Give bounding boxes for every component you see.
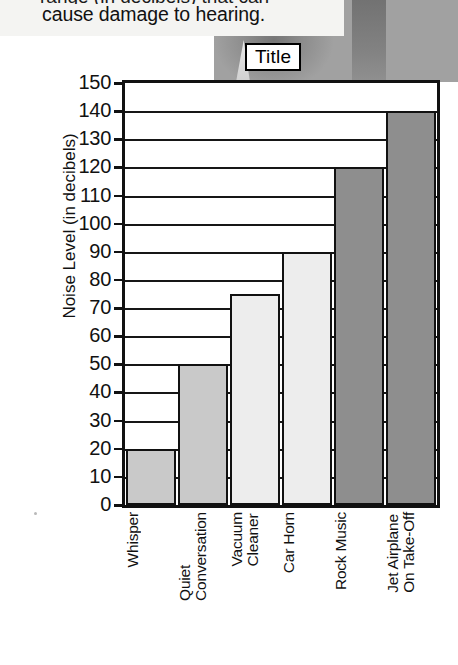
y-tick-label: 90 — [59, 240, 111, 263]
y-tick-label: 20 — [59, 437, 111, 460]
y-tick-label: 70 — [59, 296, 111, 319]
y-tick-mark — [114, 223, 125, 226]
x-axis-label: Quiet Conversation — [177, 512, 225, 601]
y-tick-label: 110 — [59, 184, 111, 207]
y-tick-label: 30 — [59, 409, 111, 432]
y-tick-mark — [114, 448, 125, 451]
y-tick-label: 0 — [59, 493, 111, 516]
plot-area: 0102030405060708090100110120130140150 — [122, 80, 440, 508]
x-axis-label: Jet Airplane On Take-Off — [385, 512, 433, 593]
bar[interactable] — [282, 252, 332, 505]
y-tick-label: 50 — [59, 352, 111, 375]
bar[interactable] — [334, 167, 384, 505]
y-tick-mark — [114, 195, 125, 198]
y-tick-label: 130 — [59, 127, 111, 150]
y-tick-label: 100 — [59, 212, 111, 235]
y-tick-label: 150 — [59, 71, 111, 94]
x-axis-labels: WhisperQuiet ConversationVacuum CleanerC… — [122, 512, 440, 662]
bar[interactable] — [386, 111, 436, 505]
bar[interactable] — [126, 449, 176, 505]
x-axis-label: Rock Music — [333, 512, 381, 590]
y-tick-mark — [114, 138, 125, 141]
y-tick-label: 10 — [59, 465, 111, 488]
x-axis-label: Car Horn — [281, 512, 329, 573]
y-tick-mark — [114, 82, 125, 85]
bars-layer — [125, 83, 437, 505]
y-tick-mark — [114, 504, 125, 507]
y-tick-mark — [114, 251, 125, 254]
y-tick-mark — [114, 307, 125, 310]
x-axis-label: Whisper — [125, 512, 173, 567]
y-tick-label: 140 — [59, 99, 111, 122]
y-tick-label: 40 — [59, 380, 111, 403]
y-tick-mark — [114, 476, 125, 479]
bar[interactable] — [178, 364, 228, 505]
chart-page: range (in decibels) that can cause damag… — [0, 0, 458, 665]
y-tick-mark — [114, 420, 125, 423]
y-tick-mark — [114, 166, 125, 169]
y-tick-mark — [114, 110, 125, 113]
x-axis-label: Vacuum Cleaner — [229, 512, 277, 567]
scan-speck — [34, 512, 37, 515]
bar-chart: Noise Level (in decibels) 01020304050607… — [0, 0, 458, 665]
y-tick-label: 80 — [59, 268, 111, 291]
y-tick-label: 60 — [59, 324, 111, 347]
y-tick-mark — [114, 335, 125, 338]
y-tick-mark — [114, 279, 125, 282]
y-tick-label: 120 — [59, 155, 111, 178]
y-tick-mark — [114, 391, 125, 394]
bar[interactable] — [230, 294, 280, 505]
y-tick-mark — [114, 363, 125, 366]
